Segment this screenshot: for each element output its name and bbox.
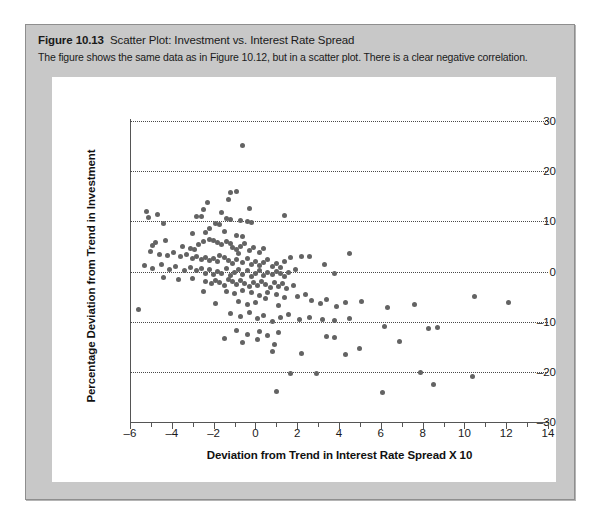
- scatter-point: [230, 261, 235, 266]
- scatter-points-layer: [52, 77, 556, 482]
- scatter-point: [343, 352, 348, 357]
- scatter-point: [265, 257, 270, 262]
- scatter-point: [385, 305, 390, 310]
- x-axis-title: Deviation from Trend in Interest Rate Sp…: [130, 449, 549, 461]
- scatter-point: [280, 281, 285, 286]
- scatter-point: [240, 288, 245, 293]
- scatter-point: [234, 328, 239, 333]
- scatter-point: [240, 234, 245, 239]
- scatter-point: [255, 337, 260, 342]
- scatter-point: [282, 213, 287, 218]
- scatter-point: [303, 292, 308, 297]
- y-axis-title: Percentage Deviation from Trend in Inves…: [85, 126, 97, 426]
- scatter-point: [203, 279, 208, 284]
- scatter-point: [224, 266, 229, 271]
- scatter-point: [276, 330, 281, 335]
- scatter-point: [322, 262, 327, 267]
- scatter-point: [236, 267, 241, 272]
- scatter-point: [150, 243, 155, 248]
- figure-caption: Figure 10.13Scatter Plot: Investment vs.…: [38, 34, 563, 63]
- scatter-point: [245, 302, 250, 307]
- scatter-point: [205, 200, 210, 205]
- scatter-point: [245, 332, 250, 337]
- scatter-point: [201, 207, 206, 212]
- scatter-point: [155, 212, 160, 217]
- scatter-point: [272, 342, 277, 347]
- scatter-point: [431, 382, 436, 387]
- caption-title-line: Figure 10.13Scatter Plot: Investment vs.…: [38, 34, 563, 46]
- scatter-point: [278, 265, 283, 270]
- scatter-point: [190, 231, 195, 236]
- scatter-point: [291, 283, 296, 288]
- scatter-point: [282, 259, 287, 264]
- scatter-point: [240, 260, 245, 265]
- scatter-point: [219, 210, 224, 215]
- scatter-point: [188, 265, 193, 270]
- scatter-point: [247, 206, 252, 211]
- scatter-point: [251, 245, 256, 250]
- scatter-point: [215, 259, 220, 264]
- scatter-point: [161, 221, 166, 226]
- scatter-point: [257, 329, 262, 334]
- scatter-point: [249, 220, 254, 225]
- scatter-point: [245, 268, 250, 273]
- figure-card: Figure 10.13Scatter Plot: Investment vs.…: [25, 24, 575, 500]
- scatter-point: [234, 233, 239, 238]
- scatter-point: [270, 319, 275, 324]
- scatter-point: [161, 275, 166, 280]
- scatter-point: [382, 324, 387, 329]
- scatter-point: [470, 374, 475, 379]
- scatter-point: [435, 325, 440, 330]
- scatter-point: [159, 262, 164, 267]
- scatter-point: [203, 230, 208, 235]
- scatter-point: [278, 315, 283, 320]
- scatter-point: [257, 268, 262, 273]
- scatter-point: [282, 295, 287, 300]
- scatter-point: [142, 263, 147, 268]
- scatter-point: [184, 252, 189, 257]
- scatter-point: [347, 316, 352, 321]
- scatter-point: [234, 189, 239, 194]
- scatter-point: [307, 315, 312, 320]
- scatter-point: [247, 310, 252, 315]
- scatter-point: [226, 197, 231, 202]
- scatter-point: [253, 300, 258, 305]
- scatter-point: [265, 333, 270, 338]
- scatter-point: [178, 254, 183, 259]
- scatter-point: [343, 300, 348, 305]
- scatter-point: [157, 252, 162, 257]
- scatter-point: [232, 291, 237, 296]
- scatter-point: [171, 250, 176, 255]
- scatter-point: [397, 339, 402, 344]
- scatter-point: [288, 255, 293, 260]
- scatter-point: [167, 267, 172, 272]
- scatter-point: [192, 247, 197, 252]
- scatter-point: [182, 268, 187, 273]
- scatter-point: [276, 303, 281, 308]
- scatter-point: [274, 292, 279, 297]
- scatter-point: [299, 351, 304, 356]
- scatter-point: [418, 370, 423, 375]
- scatter-point: [412, 302, 417, 307]
- scatter-point: [270, 349, 275, 354]
- scatter-point: [176, 277, 181, 282]
- scatter-point: [299, 254, 304, 259]
- figure-title: Scatter Plot: Investment vs. Interest Ra…: [110, 34, 354, 46]
- scatter-point: [314, 371, 319, 376]
- scatter-point: [295, 294, 300, 299]
- scatter-point: [228, 217, 233, 222]
- scatter-point: [148, 249, 153, 254]
- scatter-point: [238, 314, 243, 319]
- scatter-point: [247, 284, 252, 289]
- scatter-point: [217, 222, 222, 227]
- scatter-point: [242, 241, 247, 246]
- scatter-point: [240, 272, 245, 277]
- scatter-point: [324, 334, 329, 339]
- scatter-point: [426, 326, 431, 331]
- scatter-point: [150, 266, 155, 271]
- scatter-point: [318, 301, 323, 306]
- scatter-point: [236, 251, 241, 256]
- scatter-point: [324, 297, 329, 302]
- scatter-point: [332, 271, 337, 276]
- scatter-point: [222, 283, 227, 288]
